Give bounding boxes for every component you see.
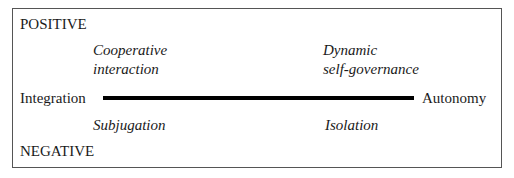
positive-label: POSITIVE <box>20 15 87 33</box>
autonomy-label: Autonomy <box>422 89 486 107</box>
isolation-label: Isolation <box>325 116 378 134</box>
dynamic-self-governance-line2: self-governance <box>323 60 419 78</box>
dynamic-self-governance-line1: Dynamic <box>323 41 377 59</box>
negative-label: NEGATIVE <box>20 142 94 160</box>
subjugation-label: Subjugation <box>93 116 166 134</box>
cooperative-interaction-line2: interaction <box>93 60 159 78</box>
integration-autonomy-axis-line <box>103 96 414 100</box>
cooperative-interaction-line1: Cooperative <box>93 41 167 59</box>
integration-label: Integration <box>20 89 86 107</box>
